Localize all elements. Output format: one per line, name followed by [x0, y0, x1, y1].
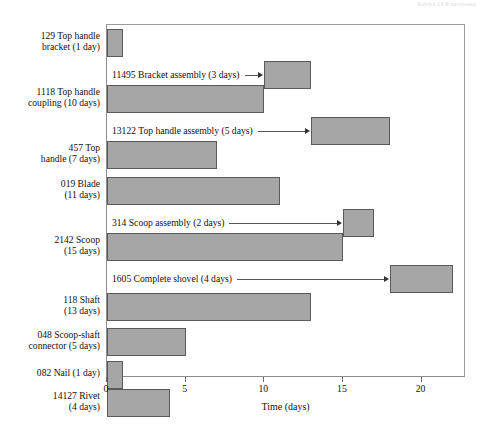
category-label-line: 129 Top handle: [41, 30, 100, 41]
x-axis-title: Time (days): [106, 401, 465, 412]
category-label: 118 Shaft(13 days): [63, 294, 100, 317]
category-label-line: handle (7 days): [41, 153, 100, 164]
x-axis-tick-label: 5: [182, 383, 187, 394]
category-label-line: 019 Blade: [61, 178, 100, 189]
category-label: 1118 Top handlecoupling (10 days): [28, 86, 100, 109]
x-axis-tick: [342, 377, 343, 382]
plot-area: 11495 Bracket assembly (3 days)13122 Top…: [106, 24, 465, 377]
annotation-arrowhead-icon: [384, 276, 389, 282]
annotation-arrowhead-icon: [258, 72, 263, 78]
annotation-leader-line: [258, 131, 305, 132]
x-axis-tick-label: 0: [104, 383, 109, 394]
category-label-line: 118 Shaft: [63, 294, 100, 305]
category-label: 048 Scoop-shaftconnector (5 days): [29, 329, 100, 352]
gantt-bar: [107, 85, 264, 113]
gantt-bar: [107, 328, 186, 356]
x-axis-tick: [106, 377, 107, 382]
header-artifact-text: Exhibit 13-8 continued: [418, 1, 476, 7]
gantt-bar: [107, 29, 123, 57]
gantt-bar: [343, 209, 374, 237]
category-label-line: connector (5 days): [29, 340, 100, 351]
x-axis-tick-label: 15: [337, 383, 347, 394]
gantt-bar: [107, 177, 280, 205]
gantt-chart-figure: Exhibit 13-8 continued 129 Top handlebra…: [0, 0, 482, 428]
annotation-arrowhead-icon: [337, 220, 342, 226]
gantt-bar: [311, 117, 390, 145]
category-axis-labels: 129 Top handlebracket (1 day)1118 Top ha…: [0, 24, 103, 377]
gantt-bar: [107, 141, 217, 169]
task-annotation-label: 13122 Top handle assembly (5 days): [112, 125, 253, 136]
x-axis-tick: [263, 377, 264, 382]
category-label: 129 Top handlebracket (1 day): [41, 30, 100, 53]
annotation-leader-line: [245, 75, 258, 76]
task-annotation-label: 11495 Bracket assembly (3 days): [112, 69, 240, 80]
category-label-line: (15 days): [54, 245, 100, 256]
plot-inner: 11495 Bracket assembly (3 days)13122 Top…: [107, 25, 464, 376]
category-label-line: 048 Scoop-shaft: [29, 329, 100, 340]
category-label-line: bracket (1 day): [41, 41, 100, 52]
gantt-bar: [390, 265, 453, 293]
gantt-bar: [107, 293, 311, 321]
category-label-line: 457 Top: [41, 142, 100, 153]
x-axis-tick: [185, 377, 186, 382]
annotation-arrowhead-icon: [305, 128, 310, 134]
category-label-line: 1118 Top handle: [28, 86, 100, 97]
category-label-line: (13 days): [63, 305, 100, 316]
category-label: 019 Blade(11 days): [61, 178, 100, 201]
x-axis-tick: [421, 377, 422, 382]
annotation-leader-line: [237, 279, 384, 280]
category-label-line: coupling (10 days): [28, 97, 100, 108]
x-axis-tick-label: 20: [416, 383, 426, 394]
category-label-line: (11 days): [61, 189, 100, 200]
task-annotation-label: 314 Scoop assembly (2 days): [112, 217, 224, 228]
category-label: 14127 Rivet(4 days): [53, 390, 100, 413]
gantt-bar: [107, 233, 343, 261]
gantt-bar: [264, 61, 311, 89]
task-annotation-label: 1605 Complete shovel (4 days): [112, 273, 232, 284]
category-label-line: (4 days): [53, 401, 100, 412]
category-label: 457 Tophandle (7 days): [41, 142, 100, 165]
category-label: 2142 Scoop(15 days): [54, 234, 100, 257]
category-label-line: 14127 Rivet: [53, 390, 100, 401]
x-axis: Time (days) 05101520: [106, 377, 465, 427]
category-label: 082 Nail (1 day): [37, 367, 100, 378]
category-label-line: 082 Nail (1 day): [37, 367, 100, 378]
annotation-leader-line: [229, 223, 337, 224]
x-axis-tick-label: 10: [258, 383, 268, 394]
category-label-line: 2142 Scoop: [54, 234, 100, 245]
